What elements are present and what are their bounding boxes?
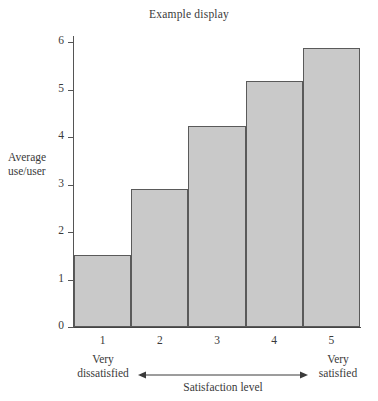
y-axis-tick: 5 — [68, 90, 74, 91]
chart-figure: Example display Average use/user 0123456… — [0, 0, 378, 401]
y-axis-tick: 0 — [68, 327, 74, 328]
x-axis-tick-label: 4 — [254, 334, 294, 346]
scale-anchor-high: Very satisfied — [300, 352, 376, 380]
y-axis-tick-label: 1 — [58, 272, 64, 284]
double-headed-arrow-icon — [138, 368, 308, 382]
x-axis-tick-label: 3 — [197, 334, 237, 346]
y-axis-tick: 6 — [68, 42, 74, 43]
plot-area: 0123456 12345 — [74, 42, 360, 327]
x-axis-title: Satisfaction level — [138, 381, 308, 393]
bar — [74, 255, 131, 327]
y-axis-tick-label: 5 — [58, 82, 64, 94]
scale-anchor-low-line-2: dissatisfied — [60, 366, 146, 380]
bar — [303, 48, 360, 327]
bar — [131, 189, 188, 327]
x-axis-tick-label: 1 — [83, 334, 123, 346]
y-axis-tick-label: 6 — [58, 34, 64, 46]
bar — [246, 81, 303, 327]
scale-anchor-high-line-1: Very — [300, 352, 376, 366]
x-axis-tick-label: 5 — [311, 334, 351, 346]
y-axis-title-line-1: Average — [8, 150, 70, 164]
chart-title: Example display — [0, 8, 378, 20]
y-axis-title: Average use/user — [8, 150, 70, 178]
x-axis-tick-label: 2 — [140, 334, 180, 346]
y-axis-tick: 3 — [68, 185, 74, 186]
scale-anchor-low-line-1: Very — [60, 352, 146, 366]
y-axis-tick: 2 — [68, 232, 74, 233]
y-axis-tick-label: 3 — [58, 177, 64, 189]
y-axis-tick-label: 4 — [58, 129, 64, 141]
y-axis-tick-label: 0 — [58, 319, 64, 331]
x-axis-line — [73, 327, 361, 328]
y-axis-tick-label: 2 — [58, 224, 64, 236]
y-axis-tick: 4 — [68, 137, 74, 138]
scale-anchor-high-line-2: satisfied — [300, 366, 376, 380]
bar — [188, 126, 245, 327]
scale-anchor-low: Very dissatisfied — [60, 352, 146, 380]
